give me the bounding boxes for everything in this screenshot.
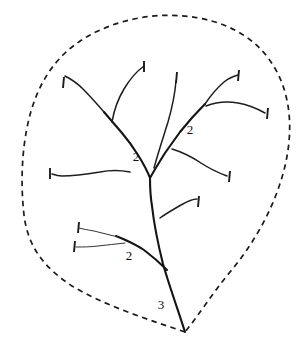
vein-left-upper-branch <box>112 66 144 122</box>
tick-mark-left-upper <box>63 77 64 88</box>
vein-secondary-upper-right <box>150 104 205 178</box>
vein-right-mid <box>172 149 227 176</box>
vein-right-horizontal <box>206 102 265 113</box>
leaf-venation-figure: 2 2 2 3 <box>0 0 303 341</box>
leaf-margin-outline <box>22 15 290 332</box>
tick-mark-far-right <box>267 108 268 119</box>
vein-lower-left-upper <box>79 228 118 237</box>
vein-midrib <box>150 178 185 332</box>
tick-mark-top-mid-right <box>176 72 177 83</box>
vein-right-lower <box>160 199 197 218</box>
tick-mark-right-lower <box>198 196 199 207</box>
tick-mark-lower-left-upper <box>78 222 79 233</box>
vein-secondary-upper-left <box>104 112 150 178</box>
vein-right-upper <box>205 75 238 104</box>
tick-mark-right-mid <box>229 171 230 182</box>
figure-canvas: 2 2 2 3 <box>0 0 303 341</box>
order-label-2-left: 2 <box>133 149 140 164</box>
order-label-2-right: 2 <box>187 122 194 137</box>
order-label-3-midrib: 3 <box>158 297 165 312</box>
tick-mark-top-right <box>238 70 239 81</box>
tick-mark-lower-left-lower <box>74 241 75 252</box>
order-label-2-lower-left: 2 <box>126 248 133 263</box>
vein-lower-left-lower <box>76 243 125 247</box>
vein-left-upper-long <box>65 76 104 112</box>
vein-left-mid <box>52 171 130 177</box>
